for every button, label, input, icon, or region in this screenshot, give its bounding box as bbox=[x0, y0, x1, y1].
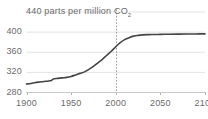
x-axis-label-1900: 1900 bbox=[11, 99, 43, 108]
co2-chart: 440 parts per million CO2 400 360 320 28… bbox=[0, 0, 208, 119]
title-subscript: 2 bbox=[128, 12, 132, 18]
y-axis-label-320: 320 bbox=[0, 67, 22, 76]
y-axis-label-440: 440 parts per million CO2 bbox=[26, 7, 131, 20]
x-axis-label-2100: 2100 bbox=[189, 99, 208, 108]
y-axis-label-360: 360 bbox=[0, 47, 22, 56]
title-value: 440 bbox=[26, 6, 42, 16]
x-axis-label-2000: 2000 bbox=[100, 99, 132, 108]
gridlines bbox=[27, 12, 206, 93]
co2-line-series bbox=[27, 34, 206, 84]
x-axis-label-2050: 2050 bbox=[144, 99, 176, 108]
x-axis-label-1950: 1950 bbox=[55, 99, 87, 108]
y-axis-label-400: 400 bbox=[0, 27, 22, 36]
y-axis-label-280: 280 bbox=[0, 88, 22, 97]
title-text: parts per million CO bbox=[42, 6, 128, 16]
